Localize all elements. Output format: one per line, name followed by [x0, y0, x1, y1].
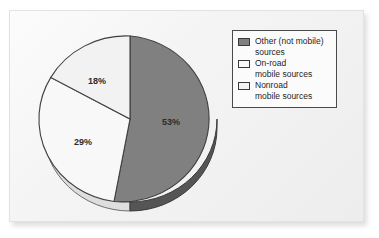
legend-label-nonroad: Nonroad mobile sources	[255, 80, 312, 101]
legend-item-other[interactable]: Other (not mobile) sources	[238, 36, 331, 57]
legend-item-nonroad[interactable]: Nonroad mobile sources	[238, 80, 331, 101]
legend-swatch-onroad-icon	[238, 60, 250, 68]
chart-card: 53% 29% 18% Other (not mobile) sources O…	[9, 10, 364, 222]
legend-label-onroad: On-road mobile sources	[255, 58, 312, 79]
screenshot-root: 53% 29% 18% Other (not mobile) sources O…	[0, 0, 379, 238]
data-label-onroad: 29%	[74, 137, 92, 147]
legend-label-other: Other (not mobile) sources	[255, 36, 324, 57]
legend-swatch-other-icon	[238, 38, 250, 46]
chart-legend: Other (not mobile) sources On-road mobil…	[232, 30, 337, 108]
legend-swatch-nonroad-icon	[238, 82, 250, 90]
data-label-other: 53%	[162, 117, 180, 127]
legend-item-onroad[interactable]: On-road mobile sources	[238, 58, 331, 79]
data-label-nonroad: 18%	[88, 76, 106, 86]
